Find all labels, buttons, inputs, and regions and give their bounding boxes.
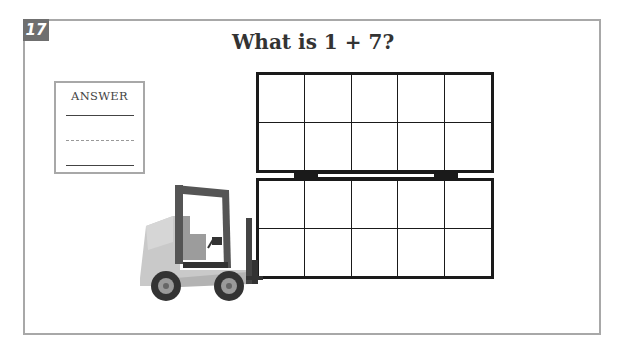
answer-label: ANSWER xyxy=(56,89,143,103)
ten-frame-top xyxy=(256,72,494,173)
ten-frame-cell[interactable] xyxy=(352,75,398,123)
question-title: What is 1 + 7? xyxy=(0,30,626,54)
ten-frame-cell[interactable] xyxy=(352,123,398,171)
ten-frame-cell[interactable] xyxy=(259,229,305,277)
answer-line-mid-dashed xyxy=(66,140,134,141)
ten-frame-cell[interactable] xyxy=(398,123,444,171)
answer-box[interactable]: ANSWER xyxy=(54,81,145,174)
ten-frame-cell[interactable] xyxy=(352,181,398,229)
ten-frame-cell[interactable] xyxy=(445,181,491,229)
answer-line-bottom xyxy=(66,165,134,166)
ten-frame-cell[interactable] xyxy=(305,75,351,123)
ten-frame-cell[interactable] xyxy=(305,181,351,229)
ten-frame-cell[interactable] xyxy=(352,229,398,277)
ten-frame-cell[interactable] xyxy=(398,75,444,123)
ten-frame-cell[interactable] xyxy=(259,75,305,123)
ten-frame-cell[interactable] xyxy=(445,75,491,123)
ten-frame-cell[interactable] xyxy=(305,229,351,277)
ten-frame-cell[interactable] xyxy=(259,181,305,229)
ten-frame-cell[interactable] xyxy=(259,123,305,171)
ten-frame-cell[interactable] xyxy=(398,229,444,277)
ten-frame-cell[interactable] xyxy=(398,181,444,229)
ten-frame-cell[interactable] xyxy=(445,123,491,171)
forklift-icon xyxy=(138,180,263,305)
answer-line-top xyxy=(66,115,134,116)
ten-frame-bottom xyxy=(256,178,494,279)
ten-frame-cell[interactable] xyxy=(445,229,491,277)
ten-frame-cell[interactable] xyxy=(305,123,351,171)
